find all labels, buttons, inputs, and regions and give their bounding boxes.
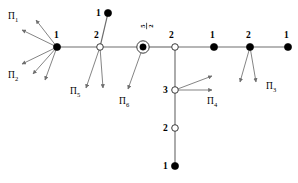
bundle-label-pi6: Π6 (119, 96, 130, 108)
bundle-arrow-pi3 (240, 47, 250, 82)
bundle-arrow-pi1 (22, 30, 57, 47)
node-label-n11: 1 (163, 161, 168, 171)
graph-node-n6[interactable] (210, 43, 217, 50)
node-label-n5: 2 (169, 30, 174, 40)
graph-node-n5[interactable] (172, 44, 179, 51)
fraction-numerator: 5 (139, 24, 146, 28)
node-label-n9: 3 (163, 85, 168, 95)
bundle-arrow-pi5 (86, 47, 100, 88)
graph-node-n8[interactable] (284, 43, 291, 50)
node-label-n1: 1 (54, 30, 59, 40)
graph-node-n11[interactable] (171, 162, 178, 169)
graph-node-n4[interactable] (137, 41, 149, 53)
node-label-n2: 2 (94, 30, 99, 40)
bundle-arrow-pi2 (33, 47, 57, 74)
node-label-n7: 2 (246, 30, 251, 40)
graph-diagram: 1212121321 Π1Π2Π5Π6Π4Π3 52 (0, 0, 298, 183)
node-label-n8: 1 (284, 30, 289, 40)
fraction-denominator: 2 (147, 24, 154, 27)
bundle-label-pi1: Π1 (8, 11, 18, 23)
bundle-label-pi4: Π4 (207, 96, 218, 108)
bundle-arrow-pi4 (175, 76, 212, 90)
fraction-label-layer: 52 (139, 23, 154, 29)
bundle-label-pi3: Π3 (266, 81, 276, 93)
graph-node-n2[interactable] (97, 44, 104, 51)
graph-node-n3[interactable] (104, 9, 111, 16)
bundle-arrow-pi3 (250, 47, 256, 82)
weight-fraction-label: 52 (139, 23, 154, 29)
node-label-n10: 2 (163, 123, 168, 133)
diagram-canvas: 1212121321 Π1Π2Π5Π6Π4Π3 52 (0, 0, 298, 183)
bundle-label-pi2: Π2 (8, 70, 18, 82)
graph-node-n1[interactable] (53, 43, 60, 50)
graph-node-n7[interactable] (246, 43, 253, 50)
graph-node-n10[interactable] (172, 125, 179, 132)
graph-edge (100, 13, 108, 47)
bundle-label-pi5: Π5 (70, 86, 80, 98)
node-label-n3: 1 (96, 8, 101, 18)
bundle-arrow-pi5 (100, 47, 103, 88)
node-label-n6: 1 (210, 30, 215, 40)
graph-node-n9[interactable] (172, 87, 179, 94)
